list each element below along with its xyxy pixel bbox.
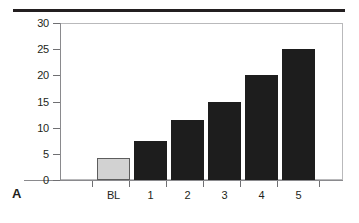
x-axis-tick [166,181,167,187]
y-axis-tick [53,128,60,129]
x-axis-tick-label: 1 [134,190,167,201]
y-axis-tick [53,180,60,181]
figure-panel-a: 051015202530 BL12345 A [0,0,359,223]
y-axis-tick-label: 0 [9,175,49,186]
y-axis-tick-label: 10 [9,123,49,134]
x-axis-tick-label: 2 [171,190,204,201]
y-axis-tick-label: 25 [9,44,49,55]
x-axis-tick [319,181,320,187]
x-axis-tick-label: 4 [245,190,278,201]
y-axis-tick [53,75,60,76]
y-axis-tick [53,154,60,155]
bar [208,102,241,180]
x-axis-tick [92,181,93,187]
x-axis-tick-label: 3 [208,190,241,201]
bar [97,158,130,180]
x-axis-tick [129,181,130,187]
top-rule-divider [13,9,345,12]
panel-label: A [12,186,21,201]
y-axis-tick [53,49,60,50]
x-axis-line [24,180,343,181]
y-axis-tick-label: 15 [9,97,49,108]
bar [282,49,315,180]
y-axis-tick [53,102,60,103]
x-axis-tick [277,181,278,187]
bar [171,120,204,180]
y-axis-tick-label: 20 [9,70,49,81]
x-axis-tick-label: BL [97,190,130,201]
x-axis-tick [203,181,204,187]
y-axis-tick-label: 30 [9,18,49,29]
y-axis-line [60,23,61,181]
x-axis-tick [240,181,241,187]
bar [134,141,167,180]
y-axis-tick [53,23,60,24]
x-axis-tick-label: 5 [282,190,315,201]
y-axis-tick-label: 5 [9,149,49,160]
bar [245,75,278,180]
